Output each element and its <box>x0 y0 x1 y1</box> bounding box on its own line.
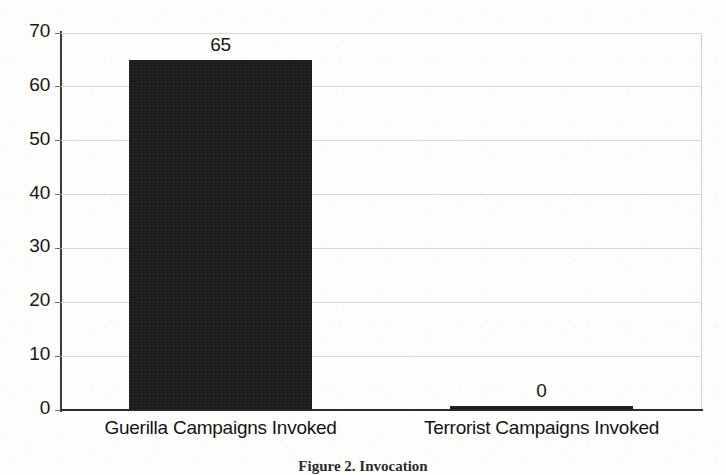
y-tick-label-50: 50 <box>6 128 50 150</box>
bar-1[interactable] <box>450 406 633 410</box>
y-tick-label-0: 0 <box>6 397 50 419</box>
y-tick-mark-20 <box>55 302 61 303</box>
y-tick-mark-60 <box>55 86 61 87</box>
y-tick-label-10: 10 <box>6 343 50 365</box>
y-tick-label-20: 20 <box>6 289 50 311</box>
category-label-0: Guerilla Campaigns Invoked <box>51 417 391 439</box>
bar-value-label-1: 0 <box>482 380 602 402</box>
bar-0[interactable] <box>129 60 312 410</box>
y-tick-label-40: 40 <box>6 182 50 204</box>
y-tick-mark-0 <box>55 410 61 411</box>
bar-value-label-0: 65 <box>161 34 281 56</box>
y-tick-label-60: 60 <box>6 74 50 96</box>
y-tick-mark-30 <box>55 248 61 249</box>
y-tick-mark-10 <box>55 356 61 357</box>
y-tick-label-30: 30 <box>6 235 50 257</box>
category-label-1: Terrorist Campaigns Invoked <box>372 417 712 439</box>
y-tick-label-70: 70 <box>6 20 50 42</box>
figure-caption: Figure 2. Invocation <box>0 458 726 475</box>
gridline-70 <box>60 33 702 34</box>
y-tick-mark-50 <box>55 140 61 141</box>
y-tick-mark-40 <box>55 194 61 195</box>
y-tick-mark-70 <box>55 33 61 34</box>
